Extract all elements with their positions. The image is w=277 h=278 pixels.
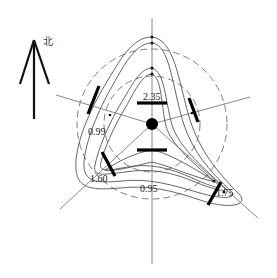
label-lower-left: 1.60 xyxy=(90,173,108,184)
label-lower-right: 1.75 xyxy=(216,187,234,198)
radial-axes xyxy=(56,18,258,264)
wind-rose-diagram: 北 2.35 0.9 xyxy=(0,0,277,278)
axis-southeast xyxy=(152,124,258,218)
marker-upper-left xyxy=(88,86,99,114)
label-top: 2.35 xyxy=(143,91,161,102)
north-arrow-icon xyxy=(20,40,49,119)
label-bottom: 0.95 xyxy=(140,183,158,194)
label-upper-left: 0.99 xyxy=(88,126,106,137)
north-label: 北 xyxy=(43,36,53,47)
center-point xyxy=(146,118,158,130)
marker-upper-right xyxy=(189,98,198,122)
